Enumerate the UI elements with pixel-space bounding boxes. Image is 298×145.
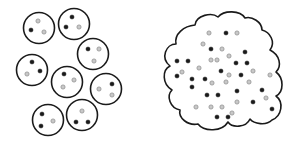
light-particle-dot	[97, 87, 101, 91]
dark-particle-dot	[215, 115, 219, 119]
particle-circle	[24, 13, 55, 44]
dark-particle-dot	[74, 120, 78, 124]
dark-particle-dot	[216, 93, 220, 97]
light-particle-dot	[247, 80, 251, 84]
dark-particle-dot	[29, 28, 33, 32]
circle-outline	[91, 74, 122, 105]
particles-diagram	[0, 0, 298, 145]
light-particle-dot	[220, 47, 224, 51]
light-particle-dot	[209, 105, 213, 109]
dark-particle-dot	[175, 59, 179, 63]
light-particle-dot	[230, 111, 234, 115]
particle-circle	[67, 100, 98, 131]
circle-outline	[67, 100, 98, 131]
separate-particles-group	[17, 9, 122, 136]
light-particle-dot	[227, 54, 231, 58]
light-particle-dot	[80, 109, 84, 113]
light-particle-dot	[227, 73, 231, 77]
dark-particle-dot	[39, 124, 43, 128]
light-particle-dot	[72, 78, 76, 82]
dark-particle-dot	[224, 31, 228, 35]
dark-particle-dot	[239, 73, 243, 77]
dark-particle-dot	[243, 50, 247, 54]
dark-particle-dot	[190, 85, 194, 89]
dark-particle-dot	[203, 77, 207, 81]
light-particle-dot	[268, 73, 272, 77]
dark-particle-dot	[209, 47, 213, 51]
light-particle-dot	[220, 105, 224, 109]
circle-outline	[78, 39, 109, 70]
light-particle-dot	[97, 47, 101, 51]
light-particle-dot	[42, 30, 46, 34]
dark-particle-dot	[64, 25, 68, 29]
light-particle-dot	[51, 119, 55, 123]
dark-particle-dot	[62, 72, 66, 76]
dark-particle-dot	[86, 120, 90, 124]
circle-outline	[17, 55, 48, 86]
light-particle-dot	[235, 100, 239, 104]
light-particle-dot	[264, 96, 268, 100]
dark-particle-dot	[235, 89, 239, 93]
light-particle-dot	[77, 25, 81, 29]
diagram-canvas	[0, 0, 298, 145]
dark-particle-dot	[234, 61, 238, 65]
dark-particle-dot	[110, 82, 114, 86]
particle-circle	[17, 55, 48, 86]
dark-particle-dot	[260, 88, 264, 92]
dark-particle-dot	[226, 115, 230, 119]
particle-circle	[33, 105, 64, 136]
dark-particle-dot	[245, 61, 249, 65]
circle-outline	[59, 9, 90, 40]
light-particle-dot	[36, 19, 40, 23]
dark-particle-dot	[40, 112, 44, 116]
light-particle-dot	[209, 58, 213, 62]
dark-particle-dot	[38, 69, 42, 73]
dark-particle-dot	[251, 100, 255, 104]
light-particle-dot	[215, 58, 219, 62]
dark-particle-dot	[270, 107, 274, 111]
light-particle-dot	[207, 31, 211, 35]
particle-circle	[52, 67, 83, 98]
particle-circle	[91, 74, 122, 105]
particle-circle	[78, 39, 109, 70]
light-particle-dot	[251, 69, 255, 73]
light-particle-dot	[92, 59, 96, 63]
light-particle-dot	[197, 66, 201, 70]
dark-particle-dot	[175, 74, 179, 78]
light-particle-dot	[224, 80, 228, 84]
light-particle-dot	[61, 85, 65, 89]
circle-outline	[33, 105, 64, 136]
particle-circle	[59, 9, 90, 40]
dark-particle-dot	[30, 60, 34, 64]
dark-particle-dot	[70, 15, 74, 19]
light-particle-dot	[180, 70, 184, 74]
light-particle-dot	[25, 72, 29, 76]
dark-particle-dot	[86, 47, 90, 51]
dark-particle-dot	[190, 77, 194, 81]
light-particle-dot	[201, 42, 205, 46]
light-particle-dot	[110, 93, 114, 97]
light-particle-dot	[210, 81, 214, 85]
dark-particle-dot	[186, 59, 190, 63]
light-particle-dot	[194, 105, 198, 109]
dark-particle-dot	[205, 93, 209, 97]
light-particle-dot	[235, 31, 239, 35]
circle-outline	[24, 13, 55, 44]
dark-particle-dot	[219, 69, 223, 73]
merged-cluster-group	[164, 12, 282, 130]
circle-outline	[52, 67, 83, 98]
